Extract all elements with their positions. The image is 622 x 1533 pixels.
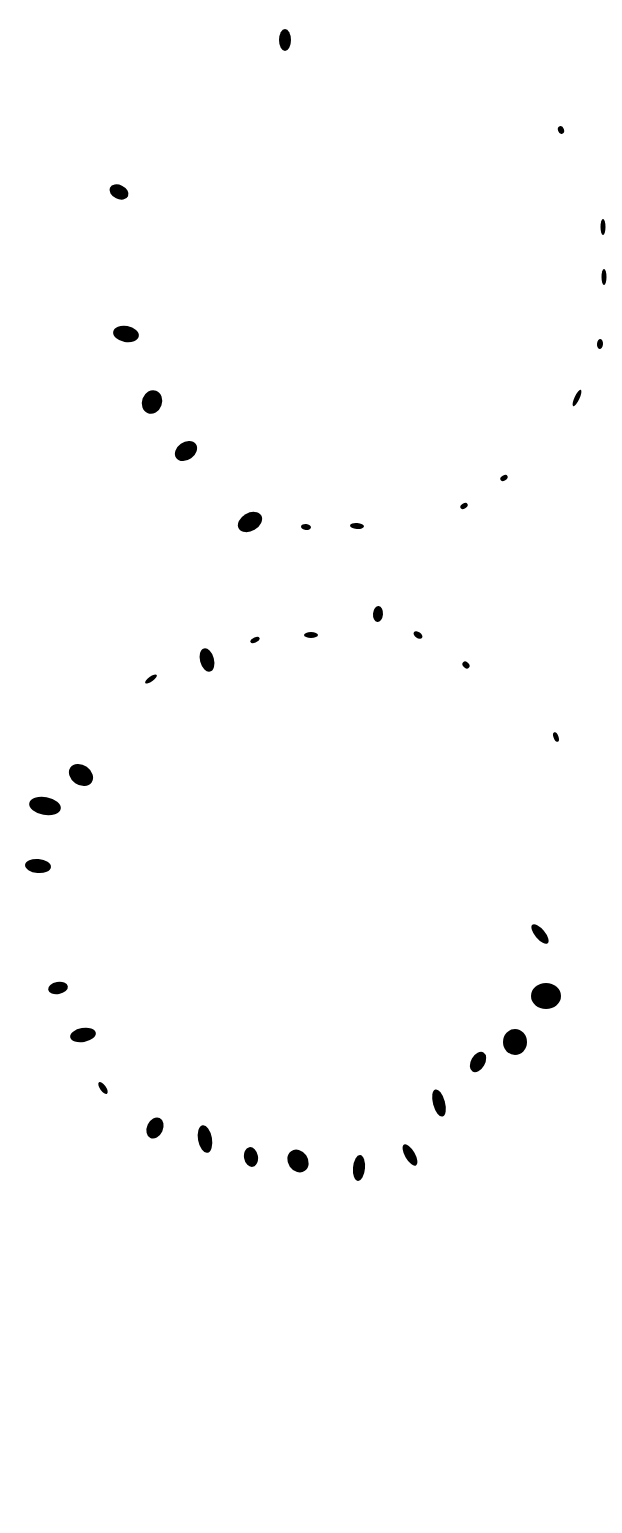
background bbox=[0, 0, 622, 1533]
blob-dot bbox=[531, 983, 561, 1009]
blob-dot bbox=[602, 269, 607, 285]
blob-dot bbox=[279, 29, 291, 51]
blob-dot bbox=[601, 219, 606, 235]
blob-dot bbox=[503, 1029, 527, 1055]
dotted-figure-canvas bbox=[0, 0, 622, 1533]
blob-dot bbox=[304, 632, 318, 638]
